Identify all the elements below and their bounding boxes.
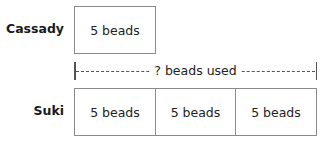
suki-segment-1: 5 beads [74,88,156,136]
row-label-cassady: Cassady [0,21,64,36]
cassady-segment-1: 5 beads [74,6,156,54]
bracket-right-tick [316,62,318,80]
total-bracket: ? beads used [74,62,317,82]
bracket-label: ? beads used [151,63,239,78]
row-label-suki: Suki [0,103,64,118]
suki-segment-2: 5 beads [155,88,237,136]
suki-segment-3: 5 beads [235,88,317,136]
